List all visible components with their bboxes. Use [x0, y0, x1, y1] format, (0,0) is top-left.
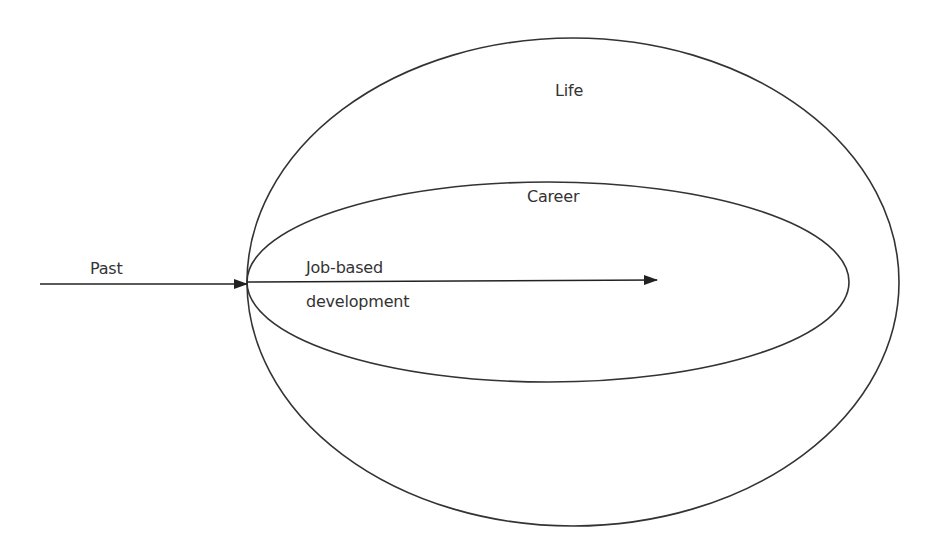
job-development-arrow [247, 280, 657, 282]
life-career-diagram [0, 0, 935, 555]
past-label: Past [90, 261, 123, 277]
development-label: development [306, 294, 409, 310]
job-based-label: Job-based [306, 260, 383, 276]
life-label: Life [555, 83, 583, 99]
career-label: Career [527, 189, 579, 205]
